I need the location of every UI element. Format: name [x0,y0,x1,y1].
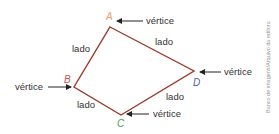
annotation-lado-bc: lado [77,99,95,110]
annotation-vertice-a: vértice [146,15,174,26]
vertex-label-b: B [64,74,71,85]
image-credit: Banco de imagens/Arquivo da editora [265,4,275,130]
polygon-diagram: A B C D vértice vértice vértice vértice … [0,0,279,134]
annotation-lado-cd: lado [166,91,184,102]
vertex-label-c: C [117,118,125,129]
annotation-lado-ad: lado [155,36,173,47]
vertex-label-a: A [105,11,113,22]
annotation-vertice-c: vértice [153,108,181,119]
annotation-vertice-b: vértice [15,81,43,92]
vertex-label-d: D [193,77,200,88]
annotation-vertice-d: vértice [224,66,252,77]
annotation-lado-ab: lado [72,43,90,54]
